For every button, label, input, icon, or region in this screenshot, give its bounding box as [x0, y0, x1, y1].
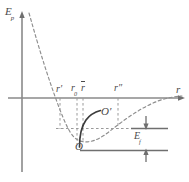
potential-energy-diagram: Ep r r′ r0 r r″ O′ O Ef: [0, 0, 189, 182]
potential-energy-curve: [29, 13, 182, 142]
energy-gap-label: Ef: [134, 131, 142, 143]
x-axis-label-text: r: [176, 83, 180, 95]
axis-group: [8, 11, 185, 172]
tick-label-r-prime-mark: ′: [60, 83, 62, 94]
tick-label-r-zero: r0: [71, 83, 78, 95]
energy-gap-label-subscript: f: [139, 138, 141, 145]
energy-gap-up-arrowhead: [143, 149, 148, 156]
diagram-canvas: [0, 0, 189, 182]
tick-label-r-bar-text: r: [81, 82, 85, 93]
tick-label-r-prime: r′: [56, 84, 62, 94]
point-label-o-prime-mark: ′: [109, 105, 111, 117]
tick-label-r-bar: r: [81, 83, 85, 93]
y-axis-label: Ep: [5, 6, 15, 20]
tick-label-r-double-prime: r″: [114, 83, 122, 93]
y-axis-arrowhead: [19, 11, 24, 18]
point-label-o: O: [75, 141, 83, 152]
point-label-o-prime: O′: [101, 106, 111, 117]
tick-label-r-zero-subscript: 0: [74, 90, 77, 97]
energy-gap-group: [80, 116, 168, 162]
tick-label-r-double-prime-mark: ″: [118, 82, 122, 93]
x-axis-label: r: [176, 84, 180, 95]
point-label-o-text: O: [75, 140, 83, 152]
tick-label-r-bar-overline: [81, 81, 84, 82]
y-axis-label-subscript: p: [11, 14, 14, 21]
point-label-o-prime-text: O: [101, 105, 109, 117]
